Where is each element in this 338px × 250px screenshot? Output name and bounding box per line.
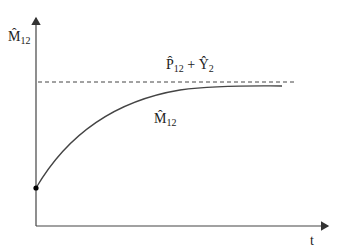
- x-axis-label: t: [310, 234, 314, 248]
- y-axis-label: M̂12: [8, 30, 30, 44]
- asymptote-label: P̂12 + Ŷ2: [166, 58, 214, 72]
- growth-curve: [36, 86, 282, 188]
- start-point: [33, 185, 38, 190]
- curve-label: M̂12: [154, 112, 176, 126]
